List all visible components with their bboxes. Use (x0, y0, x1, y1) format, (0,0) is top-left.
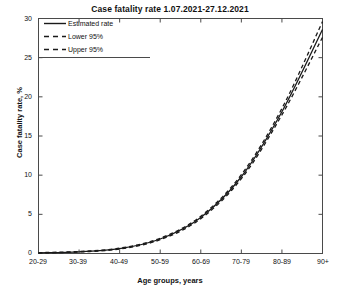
x-tick-marks (39, 19, 323, 254)
plot-area (0, 0, 340, 292)
chart-figure: Case fatality rate 1.07.2021-27.12.2021 … (0, 0, 340, 292)
series-line-lower-95 (39, 37, 323, 253)
series-line-upper-95 (39, 22, 323, 253)
plot-frame (39, 19, 323, 254)
y-tick-marks (39, 19, 323, 254)
series-line-estimated-rate (39, 29, 323, 252)
